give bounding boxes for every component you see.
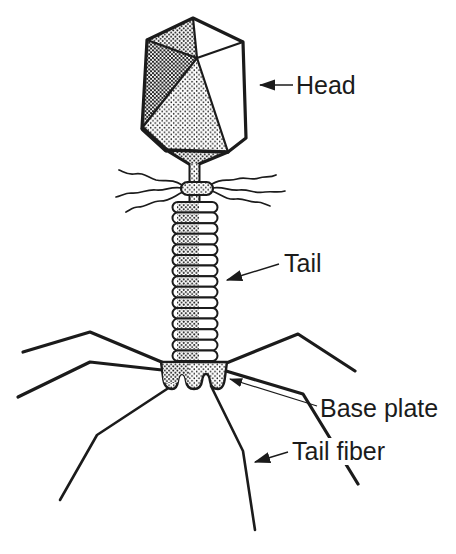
tail-arrow [227,264,279,280]
tail-sheath [173,202,218,361]
tail-fiber-right-lower [211,386,255,530]
base-plate [161,362,227,389]
base-plate-callout: Base plate [230,379,438,422]
tail-fiber-callout: Tail fiber [255,437,385,465]
tail-fiber-left-middle [18,362,162,397]
tail-fiber-label: Tail fiber [292,437,385,465]
base-plate-label: Base plate [320,394,438,422]
tail-callout: Tail [227,249,322,280]
whisker-right-2 [212,188,285,193]
base-plate-arrow [230,379,317,406]
head-label: Head [296,71,356,99]
head-callout: Head [260,71,356,99]
collar [181,182,213,195]
head-capsid [142,18,246,164]
tail-fiber-left-lower [60,387,170,500]
whisker-left-2 [116,188,182,197]
bacteriophage-diagram: Head Tail Base plate Tail fiber [0,0,456,554]
phage-figure: Head Tail Base plate Tail fiber [0,0,456,554]
whisker-left-1 [119,170,182,185]
tail-fiber-arrow [255,452,288,462]
tail-fiber-right-upper [224,334,355,371]
tail-label: Tail [284,249,322,277]
tail-fiber-left-upper [23,332,164,363]
whisker-right-3 [212,191,270,206]
whisker-right-1 [212,175,276,184]
